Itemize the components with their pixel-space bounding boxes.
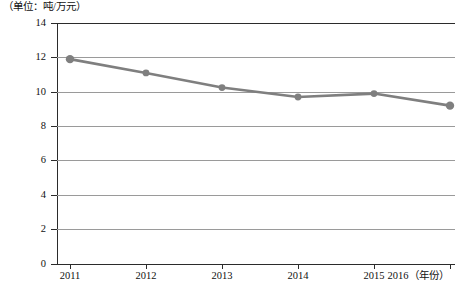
series-markers-group xyxy=(66,55,454,110)
series-line-chart xyxy=(0,0,463,290)
data-point-2013 xyxy=(219,84,226,91)
data-point-2012 xyxy=(143,70,150,77)
data-point-2014 xyxy=(295,94,302,101)
data-point-2016 xyxy=(446,101,454,109)
series-polyline xyxy=(70,59,450,105)
data-point-2015 xyxy=(371,90,378,97)
chart-container: （单位：吨/万元） 14 12 10 8 6 4 2 0 2011 2012 2… xyxy=(0,0,463,290)
data-point-2011 xyxy=(66,55,74,63)
